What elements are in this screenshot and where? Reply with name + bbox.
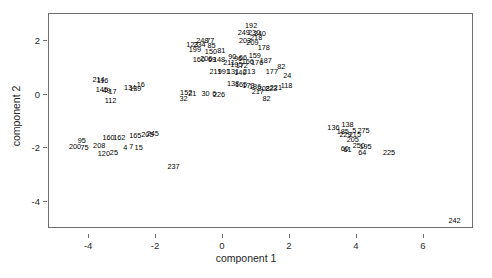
x-tick-mark	[222, 234, 223, 238]
x-tick-label: 2	[286, 240, 291, 251]
data-point-label: 15	[135, 144, 143, 151]
x-tick-label: -2	[151, 240, 159, 251]
data-point-label: 209	[246, 39, 258, 46]
data-point-label: 116	[97, 78, 109, 85]
data-point-label: 32	[179, 96, 187, 103]
data-point-label: 237	[167, 164, 179, 171]
x-tick-mark	[423, 234, 424, 238]
scatter-plot-figure: 1922492302402182032092487712323485199150…	[0, 0, 492, 278]
x-tick-label: 6	[420, 240, 425, 251]
data-point-label: 81	[217, 47, 225, 54]
y-tick-label: 2	[16, 34, 40, 45]
x-tick-mark	[289, 234, 290, 238]
data-point-label: 17	[109, 88, 117, 95]
data-point-label: 162	[113, 134, 125, 141]
data-point-label: 21	[188, 90, 196, 97]
data-point-label: 120	[98, 150, 110, 157]
plot-area: 1922492302402182032092487712323485199150…	[48, 13, 473, 228]
y-axis-title: component 2	[10, 56, 22, 176]
data-point-label: 200	[69, 144, 81, 151]
data-point-label: 7	[129, 144, 133, 151]
y-tick-mark	[43, 40, 47, 41]
y-tick-mark	[43, 147, 47, 148]
data-point-label: 24	[283, 72, 291, 79]
data-point-label: 25	[110, 149, 118, 156]
data-point-label: 82	[262, 95, 270, 102]
data-point-label: 82	[277, 63, 285, 70]
data-point-label: 199	[189, 46, 201, 53]
data-point-label: 245	[147, 130, 159, 137]
y-tick-mark	[43, 94, 47, 95]
data-point-label: 187	[260, 57, 272, 64]
data-point-label: 118	[281, 82, 293, 89]
data-point-label: 30	[202, 90, 210, 97]
x-tick-mark	[88, 234, 89, 238]
x-tick-label: -4	[84, 240, 92, 251]
data-point-label: 213	[243, 68, 255, 75]
data-point-label: 16	[137, 81, 145, 88]
data-point-label: 75	[80, 144, 88, 151]
data-point-label: 4	[123, 144, 127, 151]
data-point-label: 242	[448, 218, 460, 225]
data-point-label: 225	[383, 149, 395, 156]
data-point-label: 165	[129, 132, 141, 139]
data-point-label: 61	[343, 146, 351, 153]
data-point-label: 64	[358, 150, 366, 157]
x-tick-label: 4	[353, 240, 358, 251]
data-point-label: 178	[258, 44, 270, 51]
data-point-label: 226	[213, 91, 225, 98]
x-tick-mark	[356, 234, 357, 238]
data-point-label: 112	[105, 97, 117, 104]
y-tick-label: -4	[16, 196, 40, 207]
data-point-layer: 1922492302402182032092487712323485199150…	[49, 14, 472, 227]
y-tick-mark	[43, 201, 47, 202]
x-tick-label: 0	[219, 240, 224, 251]
x-tick-mark	[155, 234, 156, 238]
x-axis-title: component 1	[0, 252, 492, 264]
data-point-label: 177	[266, 68, 278, 75]
